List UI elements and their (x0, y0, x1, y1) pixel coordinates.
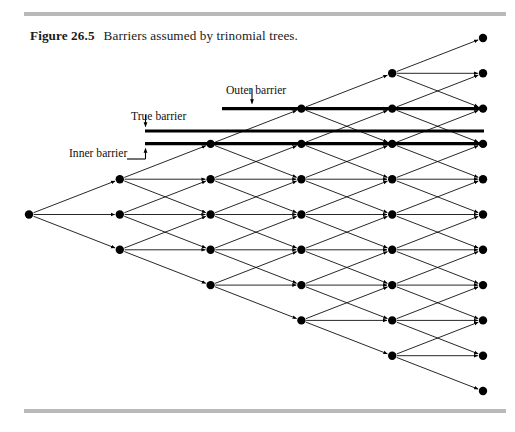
tree-node (116, 246, 124, 254)
tree-node (479, 387, 487, 395)
tree-node (479, 175, 487, 183)
tree-node (479, 104, 487, 112)
tree-node (206, 140, 214, 148)
label-leader-lines (127, 89, 252, 159)
tree-edge (397, 40, 478, 72)
trinomial-tree-diagram (0, 0, 515, 432)
tree-node (479, 352, 487, 360)
bottom-rule (24, 409, 506, 413)
tree-node (479, 246, 487, 254)
tree-node (25, 210, 33, 218)
tree-edge (397, 357, 478, 389)
tree-node (479, 140, 487, 148)
tree-node (297, 246, 305, 254)
tree-node (206, 175, 214, 183)
tree-node (388, 140, 396, 148)
tree-node (297, 140, 305, 148)
tree-node (116, 210, 124, 218)
tree-node (479, 34, 487, 42)
tree-node (388, 69, 396, 77)
tree-edge (306, 322, 387, 354)
tree-edge (124, 252, 205, 284)
tree-node (297, 281, 305, 289)
tree-node (116, 175, 124, 183)
tree-node (206, 210, 214, 218)
inner-barrier-label: Inner barrier (69, 147, 127, 160)
tree-node (297, 210, 305, 218)
tree-node (297, 175, 305, 183)
tree-node (479, 210, 487, 218)
true-barrier-label: True barrier (131, 110, 186, 123)
tree-edge (215, 110, 296, 142)
tree-edge (215, 287, 296, 319)
tree-node (206, 246, 214, 254)
figure-page: Figure 26.5Barriers assumed by trinomial… (0, 0, 515, 432)
tree-node (297, 316, 305, 324)
tree-node (206, 281, 214, 289)
tree-node (388, 246, 396, 254)
tree-node (388, 281, 396, 289)
tree-edge (306, 75, 387, 107)
tree-node (388, 352, 396, 360)
tree-node (388, 104, 396, 112)
tree-edge (33, 181, 114, 213)
tree-node (388, 316, 396, 324)
tree-edge (124, 146, 205, 178)
tree-edge (33, 216, 114, 248)
tree-node (297, 104, 305, 112)
tree-node (479, 69, 487, 77)
tree-node (479, 281, 487, 289)
outer-barrier-label: Outer barrier (226, 84, 286, 97)
tree-node (388, 175, 396, 183)
tree-node (479, 316, 487, 324)
tree-node (388, 210, 396, 218)
